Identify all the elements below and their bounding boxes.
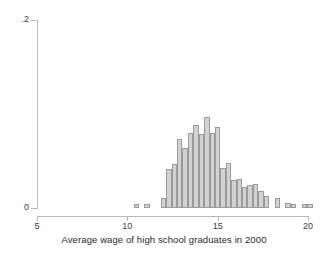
histogram-bar — [291, 204, 296, 208]
plot-area — [0, 0, 328, 263]
histogram-bar — [264, 196, 269, 208]
histogram-chart: 0.2 5101520 Average wage of high school … — [0, 0, 328, 263]
histogram-bar — [307, 204, 312, 208]
x-axis-caption: Average wage of high school graduates in… — [0, 234, 328, 245]
histogram-bar — [275, 198, 280, 208]
histogram-bar — [134, 204, 139, 208]
histogram-bar — [144, 204, 149, 208]
